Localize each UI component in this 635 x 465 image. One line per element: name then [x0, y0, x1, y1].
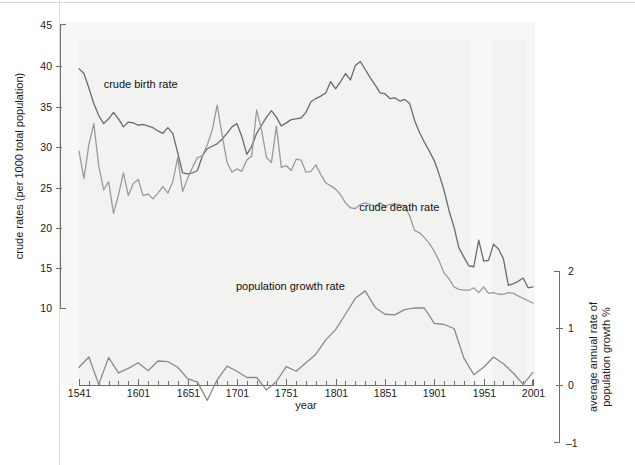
x-tick-label-1601: 1601 [127, 387, 151, 399]
x-tick-label-1541: 1541 [68, 387, 92, 399]
y2-tick-label-2: 2 [568, 265, 574, 277]
y-tick-label-45: 45 [40, 19, 52, 31]
x-tick-label-1851: 1851 [374, 387, 398, 399]
x-tick-label-1801: 1801 [325, 387, 349, 399]
y2-tick-label-0: 0 [568, 379, 574, 391]
y2-axis-title-line1: average annual rate of [587, 301, 599, 412]
y-axis-title: crude rates (per 1000 total population) [13, 73, 25, 260]
y-tick-label-20: 20 [40, 222, 52, 234]
x-tick-label-1751: 1751 [275, 387, 299, 399]
crude-birth-rate-label: crude birth rate [104, 78, 178, 90]
y-tick-label-30: 30 [40, 141, 52, 153]
y-tick-label-10: 10 [40, 302, 52, 314]
chart-figure: 45 40 35 30 25 20 15 10 crude rates (per… [0, 0, 635, 465]
crude-death-rate-label: crude death rate [359, 201, 439, 213]
plot-band-top [60, 22, 535, 40]
plot-band-left [60, 22, 79, 385]
population-rates-line-chart: 45 40 35 30 25 20 15 10 crude rates (per… [0, 0, 635, 465]
y2-axis-title-line2: population growth % [600, 307, 612, 407]
y-tick-label-15: 15 [40, 262, 52, 274]
y2-tick-label-1: 1 [568, 322, 574, 334]
plot-band-right [526, 22, 535, 385]
x-tick-label-2001: 2001 [522, 387, 546, 399]
y-tick-label-40: 40 [40, 60, 52, 72]
y-tick-label-25: 25 [40, 182, 52, 194]
population-growth-rate-label: population growth rate [236, 280, 345, 292]
plot-area-background [60, 22, 535, 385]
x-tick-label-1651: 1651 [177, 387, 201, 399]
x-tick-label-1901: 1901 [423, 387, 447, 399]
y2-tick-label-minus-1: –1 [566, 437, 578, 449]
plot-background-fill [60, 22, 535, 385]
x-axis-title: year [295, 399, 317, 411]
x-tick-label-1951: 1951 [473, 387, 497, 399]
plot-band-1901 [470, 22, 492, 385]
x-tick-label-1701: 1701 [226, 387, 250, 399]
y-tick-label-35: 35 [40, 101, 52, 113]
